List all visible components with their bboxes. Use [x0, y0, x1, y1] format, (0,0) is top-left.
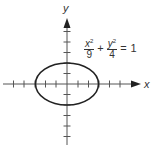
denominator-y: 4	[109, 50, 115, 60]
equation-rhs: 1	[130, 42, 138, 54]
x-axis-arrowhead	[131, 81, 141, 88]
exponent-x: 2	[90, 38, 93, 44]
x-axis-label: x	[143, 78, 150, 90]
equals-sign: =	[119, 42, 127, 54]
fraction-y-term: y2 4	[107, 36, 117, 60]
denominator-x: 9	[86, 50, 92, 60]
fraction-x-term: x2 9	[84, 36, 94, 60]
ellipse-equation: x2 9 + y2 4 = 1	[84, 36, 138, 60]
y-axis-label: y	[62, 2, 70, 14]
plus-sign: +	[96, 42, 104, 54]
exponent-y: 2	[113, 38, 116, 44]
y-axis-arrowhead	[64, 18, 71, 28]
ellipse-graph: y x	[0, 0, 152, 148]
